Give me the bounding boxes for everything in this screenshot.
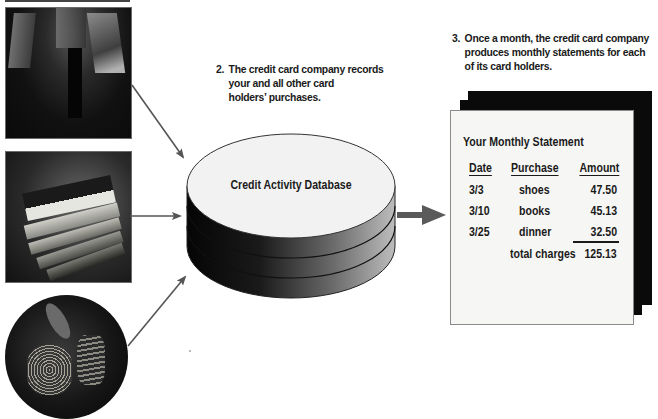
step-3-line-2: produces monthly statements for each (452, 45, 649, 59)
step-3-line-1: Once a month, the credit card company (465, 32, 649, 44)
row-2-amount: 45.13 (591, 204, 617, 218)
row-3-date: 3/25 (469, 225, 490, 239)
arrow-from-dinner (128, 277, 185, 346)
row-1-date: 3/3 (469, 183, 484, 197)
header-amount: Amount (579, 161, 619, 175)
step-3-caption: 3.Once a month, the credit card company … (452, 31, 649, 73)
row-2-date: 3/10 (469, 204, 490, 218)
credit-activity-database: Credit Activity Database (185, 128, 397, 300)
arrow-from-shopping (132, 85, 183, 157)
statement-title: Your Monthly Statement (463, 135, 584, 149)
row-2-purchase: books (519, 204, 550, 218)
row-3-amount: 32.50 (591, 225, 617, 239)
total-label: total charges (510, 247, 576, 261)
speck (189, 350, 191, 352)
row-1-purchase: shoes (519, 183, 550, 197)
database-cylinder-graphic (185, 128, 397, 300)
step-3-line-3: of its card holders. (452, 59, 649, 73)
monthly-statement: Your Monthly Statement Date Purchase Amo… (450, 110, 634, 325)
step-2-number: 2. (216, 62, 229, 76)
row-3-purchase: dinner (519, 225, 551, 239)
database-label: Credit Activity Database (198, 178, 385, 192)
step-2-line-3: holders’ purchases. (216, 90, 384, 104)
step-2-caption: 2.The credit card company records your a… (216, 62, 384, 104)
arrow-to-statement (397, 205, 446, 225)
step-2-line-2: your and all other card (216, 76, 384, 90)
header-date: Date (469, 161, 492, 175)
sum-underline (573, 241, 619, 243)
step-3-number: 3. (452, 31, 465, 45)
step-2-line-1: The credit card company records (229, 63, 384, 75)
total-value: 125.13 (585, 247, 617, 261)
row-1-amount: 47.50 (591, 183, 617, 197)
header-purchase: Purchase (511, 161, 559, 175)
